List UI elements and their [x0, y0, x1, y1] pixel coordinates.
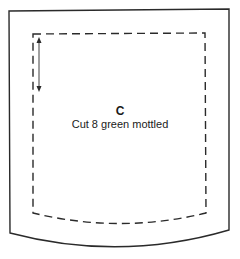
piece-letter: C — [0, 105, 240, 118]
grain-arrow-icon — [37, 37, 42, 92]
piece-label: C Cut 8 green mottled — [0, 105, 240, 131]
cutting-instructions: Cut 8 green mottled — [0, 118, 240, 131]
